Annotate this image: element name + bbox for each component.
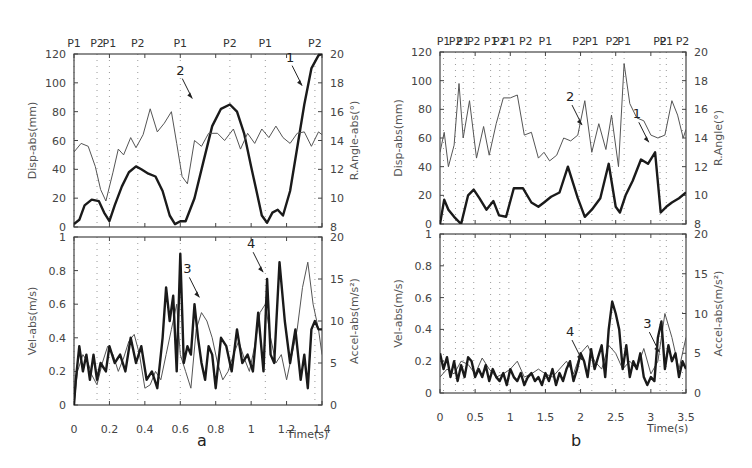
phase-marker: P1: [617, 35, 631, 48]
y-tick-right: 15: [694, 268, 708, 281]
phase-marker: P2: [308, 37, 322, 50]
x-tick-label: 0.8: [207, 423, 225, 436]
x-tick-label: 0.6: [172, 423, 190, 436]
y-tick-left: 1: [59, 231, 66, 244]
plot-frame: [440, 52, 686, 224]
y-tick-left: 120: [45, 48, 66, 61]
y-tick-right: 10: [330, 192, 344, 205]
y-tick-left: 0.6: [415, 292, 433, 305]
y-tick-left: 1: [425, 228, 432, 241]
y-tick-right: 12: [330, 163, 344, 176]
y-tick-left: 20: [52, 192, 66, 205]
y-tick-right: 0: [694, 387, 701, 400]
y-tick-left: 100: [411, 75, 432, 88]
phase-marker: P2: [676, 35, 690, 48]
panel-b-label: b: [571, 431, 581, 450]
y-tick-right: 20: [330, 231, 344, 244]
series-4: [74, 254, 322, 405]
x-tick-label: 1: [248, 423, 255, 436]
x-tick-label: 1: [507, 411, 514, 424]
x-tick-label: 0.2: [101, 423, 119, 436]
phase-marker: P2: [572, 35, 586, 48]
annotation-label: 3: [183, 261, 191, 276]
y-axis-label-right: R.Angle(°): [712, 110, 725, 166]
y-axis-label-right: Accel-abs(m/s²): [348, 278, 361, 364]
series-2: [440, 64, 686, 167]
annotation-label: 4: [247, 236, 255, 251]
y-tick-left: 20: [418, 189, 432, 202]
x-tick-label: 0.5: [466, 411, 484, 424]
y-tick-right: 20: [330, 48, 344, 61]
y-tick-right: 5: [330, 357, 337, 370]
phase-marker: P1: [659, 35, 673, 48]
y-tick-left: 40: [418, 161, 432, 174]
plot-frame: [74, 54, 322, 227]
y-tick-left: 0.4: [415, 323, 433, 336]
y-tick-right: 12: [694, 161, 708, 174]
y-tick-left: 0.4: [49, 332, 67, 345]
y-tick-right: 10: [694, 308, 708, 321]
y-tick-right: 5: [694, 347, 701, 360]
y-tick-left: 40: [52, 163, 66, 176]
y-tick-right: 16: [694, 103, 708, 116]
y-tick-right: 14: [694, 132, 708, 145]
annotation-label: 1: [286, 50, 294, 65]
phase-marker: P1: [173, 37, 187, 50]
phase-marker: P2: [467, 35, 481, 48]
y-tick-left: 60: [418, 132, 432, 145]
phase-marker: P1: [539, 35, 553, 48]
series-4: [440, 302, 686, 386]
phase-marker: P1: [502, 35, 516, 48]
y-tick-right: 10: [694, 189, 708, 202]
y-axis-label-left: Disp-abs(mm): [392, 99, 405, 177]
y-tick-left: 0.6: [49, 298, 67, 311]
x-tick-label: 1.5: [537, 411, 555, 424]
y-tick-right: 14: [330, 135, 344, 148]
annotation-label: 2: [176, 63, 184, 78]
panel-a: P1P2P1P2P1P2P1P2020406080100120810121416…: [26, 37, 361, 436]
y-tick-left: 0: [59, 399, 66, 412]
y-tick-left: 0: [425, 387, 432, 400]
y-tick-left: 80: [52, 106, 66, 119]
panel-b-xlabel: Time(s): [646, 422, 688, 435]
annotation-label: 3: [643, 316, 651, 331]
y-tick-right: 0: [330, 399, 337, 412]
y-tick-left: 0.8: [49, 265, 67, 278]
y-tick-left: 100: [45, 77, 66, 90]
phase-marker: P1: [67, 37, 81, 50]
annotation-label: 1: [633, 106, 641, 121]
phase-marker: P1: [258, 37, 272, 50]
panel-a-label: a: [197, 431, 207, 450]
y-axis-label-left: Disp-abs(mm): [26, 102, 39, 180]
y-tick-left: 0.8: [415, 260, 433, 273]
x-tick-label: 0.4: [136, 423, 154, 436]
x-tick-label: 2: [577, 411, 584, 424]
x-tick-label: 0: [437, 411, 444, 424]
y-axis-label-left: Vel-abs(m/s): [26, 287, 39, 356]
y-tick-right: 10: [330, 315, 344, 328]
phase-marker: P1: [585, 35, 599, 48]
panel-a-xlabel: Time(s): [286, 428, 328, 441]
y-tick-left: 0.2: [415, 355, 433, 368]
panel-b: P1P2P1P2P1P2P1P2P1P2P1P2P1P2P1P202040608…: [392, 35, 725, 424]
phase-marker: P2: [223, 37, 237, 50]
y-tick-left: 60: [52, 135, 66, 148]
y-tick-left: 120: [411, 46, 432, 59]
x-tick-label: 2.5: [607, 411, 625, 424]
y-axis-label-right: Accel-abs(m/s²): [712, 271, 725, 357]
y-tick-right: 20: [694, 46, 708, 59]
y-tick-left: 0.2: [49, 365, 67, 378]
figure: P1P2P1P2P1P2P1P2020406080100120810121416…: [0, 0, 752, 468]
y-tick-right: 18: [330, 77, 344, 90]
y-tick-right: 18: [694, 75, 708, 88]
phase-marker: P2: [131, 37, 145, 50]
y-tick-left: 80: [418, 103, 432, 116]
annotation-label: 4: [566, 324, 574, 339]
series-1: [440, 152, 686, 224]
y-axis-label-left: Vel-abs(m/s): [392, 279, 405, 348]
x-tick-label: 0: [71, 423, 78, 436]
phase-marker: P2: [519, 35, 533, 48]
y-tick-right: 16: [330, 106, 344, 119]
y-axis-label-right: R.Angle-abs(°): [348, 101, 361, 181]
y-tick-right: 20: [694, 228, 708, 241]
